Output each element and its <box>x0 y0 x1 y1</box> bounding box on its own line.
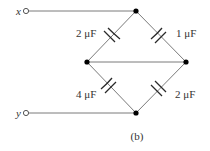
top-node <box>133 8 138 13</box>
capacitor-label-bottom-left: 4 μF <box>76 88 96 100</box>
figure-caption: (b) <box>131 130 144 143</box>
capacitor-label-top-left: 2 μF <box>76 27 96 39</box>
capacitor-label-top-right: 1 μF <box>176 27 196 39</box>
capacitor-symbol-bottom-right <box>151 81 166 96</box>
terminal-y <box>23 110 28 115</box>
terminal-x-label: x <box>15 5 21 17</box>
capacitor-symbol-bottom-left <box>101 78 116 93</box>
bottom-node <box>133 110 138 115</box>
left-node <box>84 59 89 64</box>
terminal-x <box>23 8 28 13</box>
capacitor-symbol-top-right <box>151 28 166 43</box>
right-node <box>183 59 188 64</box>
capacitor-label-bottom-right: 2 μF <box>175 88 195 100</box>
capacitor-circuit-diagram: x y 2 μF 1 μF 4 μF 2 μF (b) <box>0 0 210 151</box>
terminal-y-label: y <box>15 107 21 119</box>
